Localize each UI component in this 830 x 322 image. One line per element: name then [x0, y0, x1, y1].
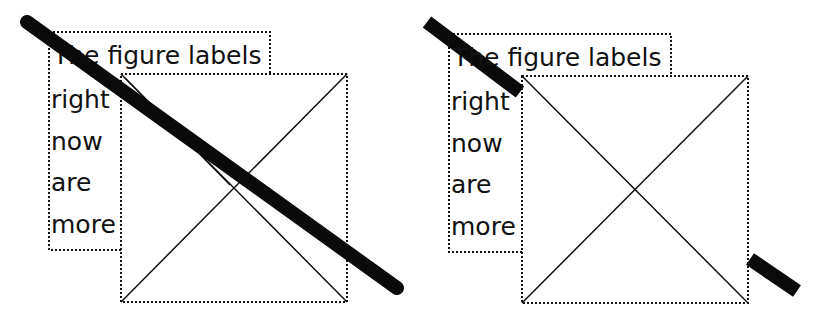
- panel-right: The figure labels right now are more: [400, 0, 815, 322]
- label-line: right: [51, 85, 110, 114]
- label-line: more: [451, 212, 516, 241]
- label-line: now: [451, 129, 503, 158]
- thick-stroke-segment: [750, 259, 797, 291]
- label-line: right: [451, 87, 510, 116]
- figure-left: The figure labels right now are more: [0, 0, 415, 322]
- label-line: are: [451, 170, 491, 199]
- label-line: more: [51, 210, 116, 239]
- label-line: are: [51, 168, 91, 197]
- figure-right: The figure labels right now are more: [400, 0, 815, 322]
- panel-left: The figure labels right now are more: [0, 0, 415, 322]
- label-line: The figure labels: [452, 43, 661, 72]
- label-line: now: [51, 127, 103, 156]
